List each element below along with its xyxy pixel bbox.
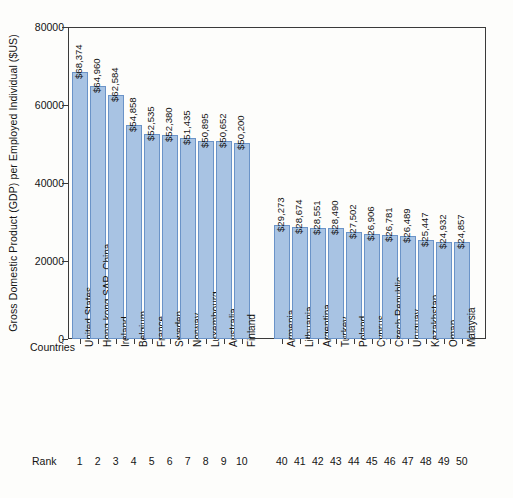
- rank-value: 42: [312, 455, 324, 467]
- bar-value-label: $64,960: [91, 58, 102, 93]
- rank-value: 6: [167, 455, 173, 467]
- rank-value: 48: [420, 455, 432, 467]
- x-tick-mark: [444, 339, 445, 344]
- chart-page: Gross Domestic Product (GDP) per Employe…: [0, 0, 513, 498]
- bar-value-label: $28,490: [329, 200, 340, 235]
- x-tick-mark: [336, 339, 337, 344]
- bar-value-label: $27,502: [347, 204, 358, 239]
- x-tick-mark: [354, 339, 355, 344]
- x-tick-mark: [318, 339, 319, 344]
- rank-value: 7: [185, 455, 191, 467]
- y-tick-label: 80000: [20, 21, 64, 33]
- plot-right-spine: [485, 27, 486, 339]
- x-tick-mark: [206, 339, 207, 344]
- bar-value-label: $52,535: [145, 106, 156, 141]
- bar-value-label: $26,489: [401, 208, 412, 243]
- y-axis-ticks: 020000400006000080000: [18, 0, 64, 498]
- x-category-label: Finland: [246, 314, 257, 347]
- bar-value-label: $26,906: [365, 206, 376, 241]
- x-tick-mark: [300, 339, 301, 344]
- x-tick-mark: [390, 339, 391, 344]
- rank-value: 44: [348, 455, 360, 467]
- bar-value-label: $54,858: [127, 97, 138, 132]
- rank-value: 10: [236, 455, 248, 467]
- y-tick-label: 40000: [20, 177, 64, 189]
- bar: [126, 125, 142, 339]
- rank-value: 1: [77, 455, 83, 467]
- bar-value-label: $50,200: [235, 116, 246, 151]
- y-tick-mark: [62, 261, 68, 262]
- rank-value: 41: [294, 455, 306, 467]
- x-category-label: Malaysia: [466, 308, 477, 347]
- rank-value: 46: [384, 455, 396, 467]
- x-tick-mark: [408, 339, 409, 344]
- x-tick-mark: [372, 339, 373, 344]
- x-axis-title: Countries: [30, 341, 75, 353]
- rank-value: 5: [149, 455, 155, 467]
- bar: [234, 143, 250, 339]
- bar: [180, 138, 196, 339]
- bar-value-label: $50,652: [217, 114, 228, 149]
- rank-value: 50: [456, 455, 468, 467]
- rank-value: 3: [113, 455, 119, 467]
- y-tick-mark: [62, 183, 68, 184]
- x-tick-mark: [98, 339, 99, 344]
- bar: [144, 134, 160, 339]
- rank-value: 43: [330, 455, 342, 467]
- rank-value: 47: [402, 455, 414, 467]
- x-tick-mark: [188, 339, 189, 344]
- bar-value-label: $62,584: [109, 67, 120, 102]
- rank-value: 8: [203, 455, 209, 467]
- x-tick-mark: [134, 339, 135, 344]
- bar-value-label: $51,435: [181, 111, 192, 146]
- bar-value-label: $24,857: [455, 214, 466, 249]
- bar-value-label: $24,932: [437, 214, 448, 249]
- rank-value: 2: [95, 455, 101, 467]
- y-tick-mark: [62, 339, 68, 340]
- x-tick-mark: [242, 339, 243, 344]
- y-tick-label: 60000: [20, 99, 64, 111]
- bar-value-label: $68,374: [73, 45, 84, 80]
- rank-value: 49: [438, 455, 450, 467]
- rank-value: 40: [276, 455, 288, 467]
- x-tick-mark: [152, 339, 153, 344]
- x-tick-mark: [116, 339, 117, 344]
- x-tick-mark: [462, 339, 463, 344]
- bar-value-label: $50,895: [199, 113, 210, 148]
- bar: [108, 95, 124, 339]
- bar-value-label: $29,273: [275, 197, 286, 232]
- rank-value: 9: [221, 455, 227, 467]
- bar-value-label: $25,447: [419, 212, 430, 247]
- y-tick-mark: [62, 27, 68, 28]
- x-tick-mark: [426, 339, 427, 344]
- bar-value-label: $52,380: [163, 107, 174, 142]
- rank-value: 4: [131, 455, 137, 467]
- y-tick-label: 20000: [20, 255, 64, 267]
- x-tick-mark: [282, 339, 283, 344]
- y-tick-mark: [62, 105, 68, 106]
- x-tick-mark: [170, 339, 171, 344]
- rank-row-label: Rank: [32, 455, 57, 467]
- bar: [162, 135, 178, 339]
- bar-value-label: $28,551: [311, 200, 322, 235]
- x-tick-mark: [224, 339, 225, 344]
- x-tick-mark: [80, 339, 81, 344]
- rank-value: 45: [366, 455, 378, 467]
- bar-value-label: $28,674: [293, 199, 304, 234]
- bar-value-label: $26,781: [383, 207, 394, 242]
